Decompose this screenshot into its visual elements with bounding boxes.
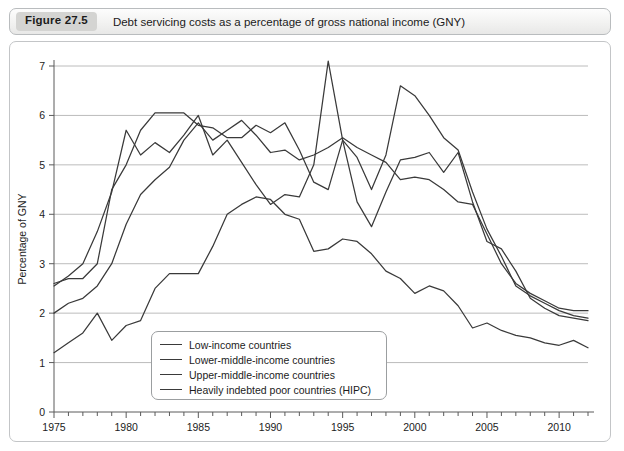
- y-axis-title: Percentage of GNY: [16, 193, 28, 284]
- y-axis-ticks-group: 01234567: [39, 60, 54, 418]
- legend-line-icon: [160, 374, 182, 375]
- y-tick-label: 2: [39, 307, 45, 319]
- legend-item-lower-middle-income: Lower-middle-income countries: [160, 352, 378, 367]
- series-line-2: [54, 61, 588, 321]
- legend-item-upper-middle-income: Upper-middle-income countries: [160, 367, 378, 382]
- series-line-1: [54, 120, 588, 313]
- x-tick-label: 2005: [475, 421, 499, 433]
- chart-legend: Low-income countries Lower-middle-income…: [151, 331, 387, 400]
- y-tick-label: 1: [39, 357, 45, 369]
- x-tick-label: 1995: [331, 421, 355, 433]
- legend-line-icon: [160, 389, 182, 390]
- y-tick-label: 7: [39, 60, 45, 72]
- x-tick-label: 1990: [259, 421, 283, 433]
- legend-item-low-income: Low-income countries: [160, 337, 378, 352]
- y-tick-label: 3: [39, 258, 45, 270]
- series-line-0: [54, 86, 588, 318]
- figure-root: Figure 27.5 Debt servicing costs as a pe…: [0, 0, 624, 451]
- chart-panel: 01234567 1975198019851990199520002005201…: [9, 41, 611, 442]
- y-tick-label: 4: [39, 208, 45, 220]
- y-tick-label: 5: [39, 159, 45, 171]
- data-series-group: [54, 61, 588, 353]
- x-tick-label: 1975: [42, 421, 66, 433]
- legend-item-label: Lower-middle-income countries: [189, 354, 335, 366]
- x-tick-label: 2000: [403, 421, 427, 433]
- legend-item-hipc: Heavily indebted poor countries (HIPC): [160, 382, 378, 397]
- figure-caption-text: Debt servicing costs as a percentage of …: [113, 16, 465, 28]
- legend-item-label: Heavily indebted poor countries (HIPC): [189, 384, 371, 396]
- y-tick-label: 0: [39, 406, 45, 418]
- x-axis-ticks-group: 19751980198519901995200020052010: [42, 412, 588, 433]
- legend-line-icon: [160, 359, 182, 360]
- figure-number-badge: Figure 27.5: [16, 12, 97, 31]
- legend-line-icon: [160, 344, 182, 345]
- x-tick-label: 1985: [187, 421, 211, 433]
- y-tick-label: 6: [39, 109, 45, 121]
- legend-item-label: Low-income countries: [189, 339, 291, 351]
- figure-caption-bar: Figure 27.5 Debt servicing costs as a pe…: [9, 8, 611, 35]
- legend-item-label: Upper-middle-income countries: [189, 369, 335, 381]
- x-tick-label: 2010: [547, 421, 571, 433]
- series-line-3: [54, 197, 588, 353]
- x-tick-label: 1980: [114, 421, 138, 433]
